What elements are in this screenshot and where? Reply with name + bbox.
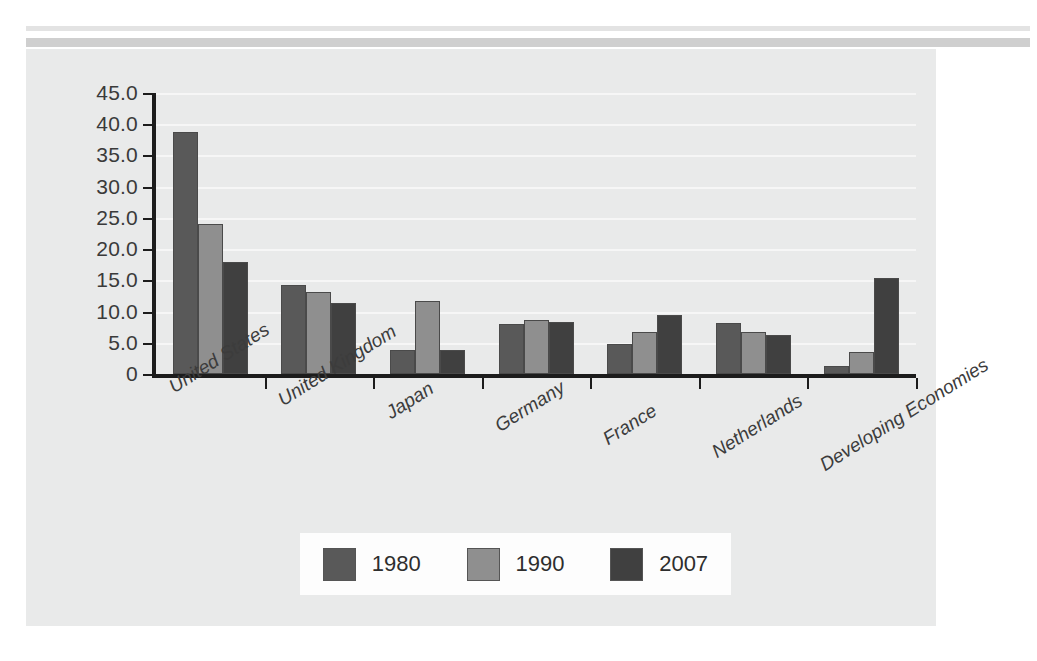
bar (716, 323, 741, 374)
legend-label: 1980 (372, 551, 421, 577)
y-axis-tick-label: 30.0 (96, 175, 138, 199)
legend-item: 1980 (323, 548, 421, 581)
y-axis-tick (143, 312, 152, 314)
y-axis-tick (143, 374, 152, 376)
y-axis-tick (143, 187, 152, 189)
y-axis-tick (143, 249, 152, 251)
y-axis-tick (143, 343, 152, 345)
bar (607, 344, 632, 374)
y-axis-tick-label: 35.0 (96, 143, 138, 167)
category-label: Netherlands (708, 390, 807, 463)
y-axis-tick-label: 15.0 (96, 268, 138, 292)
legend-swatch (323, 548, 356, 581)
x-axis-line (152, 374, 916, 378)
legend-item: 2007 (610, 548, 708, 581)
legend-label: 1990 (516, 551, 565, 577)
bar (499, 324, 524, 374)
y-axis-tick (143, 218, 152, 220)
y-axis-tick (143, 280, 152, 282)
scan-band-lower (26, 38, 1030, 47)
y-axis-tick (143, 155, 152, 157)
legend-swatch (610, 548, 643, 581)
scan-band-upper (26, 26, 1030, 31)
bar (824, 366, 849, 374)
category-label: Germany (491, 377, 569, 437)
legend-label: 2007 (659, 551, 708, 577)
y-axis-tick (143, 124, 152, 126)
bar (549, 322, 574, 374)
category-label: France (599, 400, 661, 450)
bar (524, 320, 549, 374)
bar (741, 332, 766, 374)
chart-panel: 05.010.015.020.025.030.035.040.045.0 Uni… (26, 49, 936, 626)
y-axis-tick-label: 10.0 (96, 300, 138, 324)
bar (415, 301, 440, 374)
bar (173, 132, 198, 374)
bar (632, 332, 657, 374)
y-axis-tick-label: 40.0 (96, 112, 138, 136)
category-label: Japan (382, 378, 438, 424)
bar (766, 335, 791, 374)
y-axis-tick-label: 25.0 (96, 206, 138, 230)
y-axis-tick-label: 0 (126, 362, 138, 386)
page-bottom-margin (0, 626, 1037, 661)
bar (874, 278, 899, 374)
bar (440, 350, 465, 374)
y-axis-tick (143, 93, 152, 95)
y-axis-tick-label: 45.0 (96, 81, 138, 105)
category-axis-labels: United StatesUnited KingdomJapanGermanyF… (152, 379, 942, 509)
chart-legend: 198019902007 (300, 533, 731, 595)
y-axis-tick-label: 5.0 (108, 331, 138, 355)
legend-item: 1990 (467, 548, 565, 581)
bar (281, 285, 306, 374)
bar (390, 350, 415, 374)
bar (657, 315, 682, 374)
page-canvas: 05.010.015.020.025.030.035.040.045.0 Uni… (0, 0, 1037, 661)
y-axis-tick-label: 20.0 (96, 237, 138, 261)
legend-swatch (467, 548, 500, 581)
bar (849, 352, 874, 374)
